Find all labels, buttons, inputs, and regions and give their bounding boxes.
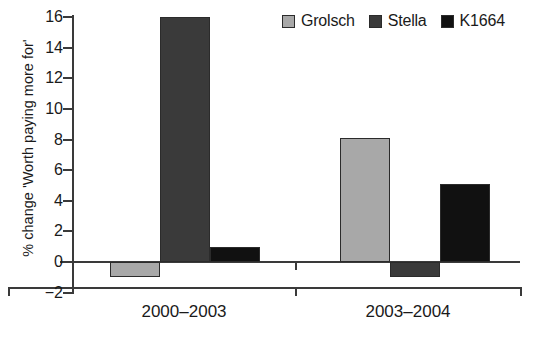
x-axis-center-tick [295, 287, 297, 296]
bar-grolsch-2000-2003 [110, 262, 160, 277]
legend-swatch-grolsch [282, 15, 295, 28]
chart-legend: Grolsch Stella K1664 [282, 10, 505, 32]
legend-item-stella: Stella [369, 13, 427, 29]
y-axis-tick-2 [63, 230, 72, 232]
y-axis-tick-label-10: 10 [29, 101, 63, 117]
bar-stella-2000-2003 [160, 17, 210, 262]
y-axis-tick-4 [63, 200, 72, 202]
y-axis-tick-label-16: 16 [29, 9, 63, 25]
legend-swatch-stella [369, 15, 382, 28]
legend-label-stella: Stella [388, 13, 427, 29]
y-axis-tick-label-−2: −2 [29, 285, 63, 301]
x-axis-category-label-1: 2003–2004 [296, 303, 520, 321]
y-axis-tick-label-14: 14 [29, 40, 63, 56]
y-axis-tick-label-4: 4 [29, 193, 63, 209]
x-axis-left-cap [8, 287, 10, 296]
y-axis-tick-0 [63, 261, 72, 263]
legend-item-grolsch: Grolsch [282, 13, 355, 29]
x-axis-category-label-0: 2000–2003 [72, 303, 296, 321]
y-axis-tick-6 [63, 169, 72, 171]
y-axis-tick-label-0: 0 [29, 254, 63, 270]
y-axis-tick-16 [63, 16, 72, 18]
legend-label-k1664: K1664 [460, 13, 505, 29]
y-axis-tick-10 [63, 108, 72, 110]
bar-grolsch-2003-2004 [340, 138, 390, 262]
y-axis-tick-8 [63, 139, 72, 141]
bar-chart: Grolsch Stella K1664 % change 'Worth pay… [0, 0, 539, 338]
y-axis-tick-label-8: 8 [29, 132, 63, 148]
bar-k1664-2003-2004 [440, 184, 490, 262]
y-axis-tick-14 [63, 47, 72, 49]
y-axis-tick-label-2: 2 [29, 223, 63, 239]
legend-item-k1664: K1664 [441, 13, 505, 29]
y-axis-tick-label-6: 6 [29, 162, 63, 178]
x-axis-right-cap [520, 287, 522, 296]
y-axis-tick-12 [63, 77, 72, 79]
legend-label-grolsch: Grolsch [301, 13, 355, 29]
y-axis-tick-label-12: 12 [29, 70, 63, 86]
bar-stella-2003-2004 [390, 262, 440, 277]
y-axis-line [72, 15, 74, 294]
y-axis-tick-−2 [63, 292, 72, 294]
legend-swatch-k1664 [441, 15, 454, 28]
bar-k1664-2000-2003 [210, 247, 260, 262]
zero-line-center-tick [295, 261, 297, 270]
x-axis-line [8, 287, 522, 289]
